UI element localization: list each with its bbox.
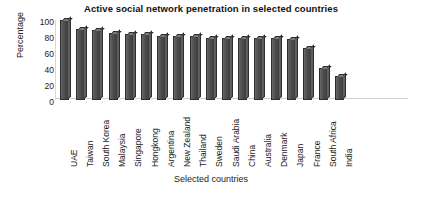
y-axis-tick-label: 0 bbox=[49, 98, 54, 106]
bar bbox=[319, 68, 328, 100]
plot-area bbox=[56, 18, 414, 100]
bar-chart: Active social network penetration in sel… bbox=[0, 0, 422, 197]
bar bbox=[303, 48, 312, 100]
bar bbox=[173, 36, 182, 100]
x-axis-tick-label: Malaysia bbox=[117, 133, 127, 167]
x-axis-tick-labels: UAETaiwanSouth KoreaMalaysiaSingaporeHon… bbox=[56, 101, 414, 171]
bar bbox=[125, 34, 134, 100]
bar bbox=[254, 38, 263, 100]
x-axis-tick-label: Sweden bbox=[214, 136, 224, 167]
x-axis-tick-label: Thailand bbox=[198, 134, 208, 167]
x-axis-tick-label: France bbox=[312, 141, 322, 167]
bar bbox=[335, 76, 344, 100]
bar bbox=[271, 38, 280, 100]
x-axis-tick-label: Saudi Arabia bbox=[231, 119, 241, 167]
bar bbox=[92, 30, 101, 100]
bar bbox=[206, 38, 215, 100]
x-axis-tick-label: UAE bbox=[69, 150, 79, 167]
x-axis-tick-label: Australia bbox=[263, 134, 273, 167]
y-axis-tick-label: 20 bbox=[45, 82, 54, 90]
bar bbox=[238, 38, 247, 100]
y-axis-tick-label: 80 bbox=[45, 34, 54, 42]
x-axis-tick-label: New Zealand bbox=[182, 117, 192, 167]
x-axis-tick-label: Singapore bbox=[133, 128, 143, 167]
bar bbox=[190, 36, 199, 100]
x-axis-tick-label: South Africa bbox=[328, 121, 338, 167]
bar bbox=[287, 39, 296, 100]
y-axis-tick-labels: 100806040200 bbox=[30, 0, 54, 197]
y-axis-tick-label: 40 bbox=[45, 66, 54, 74]
bar bbox=[222, 38, 231, 100]
y-axis-title: Percentage bbox=[15, 0, 25, 73]
x-axis-tick-label: Denmark bbox=[279, 133, 289, 167]
y-axis-tick-label: 60 bbox=[45, 50, 54, 58]
x-axis-tick-label: Hongkong bbox=[150, 128, 160, 167]
x-axis-tick-label: China bbox=[247, 145, 257, 167]
y-axis-tick-label: 100 bbox=[40, 18, 54, 26]
bar bbox=[109, 33, 118, 100]
x-axis-title: Selected countries bbox=[0, 174, 422, 184]
bar bbox=[157, 36, 166, 100]
bar bbox=[60, 20, 69, 100]
chart-title: Active social network penetration in sel… bbox=[0, 3, 422, 14]
bar bbox=[76, 29, 85, 100]
x-axis-tick-label: Japan bbox=[295, 144, 305, 167]
x-axis-tick-label: Argentina bbox=[166, 131, 176, 167]
x-axis-tick-label: South Korea bbox=[101, 120, 111, 167]
bar bbox=[141, 34, 150, 100]
x-axis-tick-label: Taiwan bbox=[85, 141, 95, 167]
x-axis-tick-label: India bbox=[344, 149, 354, 167]
